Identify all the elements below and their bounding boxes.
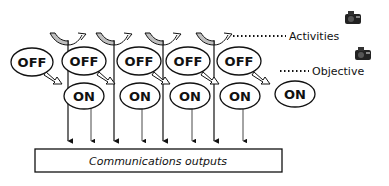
off-state-label: OFF — [70, 54, 99, 69]
transition-arrow-icon — [201, 72, 219, 84]
on-state-node: ON — [170, 83, 210, 109]
activity-curl-arrows — [50, 33, 232, 45]
on-state-label: ON — [179, 89, 201, 104]
transition-arrow-icon — [97, 72, 115, 84]
curl-arrow-icon — [96, 33, 132, 45]
off-state-label: OFF — [125, 54, 154, 69]
off-state-node: OFF — [166, 47, 210, 75]
transition-arrow-icon — [44, 72, 62, 84]
transition-arrow-icon — [152, 72, 170, 84]
objective-label: Objective — [312, 65, 364, 78]
curl-arrow-icon — [196, 33, 232, 45]
on-state-node: ON — [220, 83, 260, 109]
on-state-label: ON — [284, 87, 306, 102]
communications-outputs-label: Communications outputs — [89, 155, 227, 168]
on-state-label: ON — [73, 89, 95, 104]
communications-outputs-box: Communications outputs — [35, 149, 282, 172]
on-state-node: ON — [64, 83, 104, 109]
on-state-row: ON ON ON ON ON — [64, 81, 315, 109]
off-state-node: OFF — [11, 48, 53, 76]
state-transition-diagram: Activities Objective OFF OFF OFF OFF OFF — [0, 0, 389, 186]
off-state-node: OFF — [62, 47, 106, 75]
off-state-node: OFF — [217, 47, 261, 75]
camera-icon — [355, 47, 371, 60]
off-state-row: OFF OFF OFF OFF OFF — [11, 47, 261, 76]
curl-arrow-icon — [50, 33, 86, 45]
on-state-node: ON — [275, 81, 315, 107]
on-state-label: ON — [129, 89, 151, 104]
off-state-label: OFF — [18, 55, 47, 70]
off-state-node: OFF — [117, 47, 161, 75]
curl-arrow-icon — [145, 33, 181, 45]
off-state-label: OFF — [174, 54, 203, 69]
on-state-label: ON — [229, 89, 251, 104]
camera-icon — [345, 11, 361, 24]
transition-arrow-icon — [252, 72, 270, 84]
on-state-node: ON — [120, 83, 160, 109]
off-state-label: OFF — [225, 54, 254, 69]
activities-label: Activities — [289, 30, 339, 43]
